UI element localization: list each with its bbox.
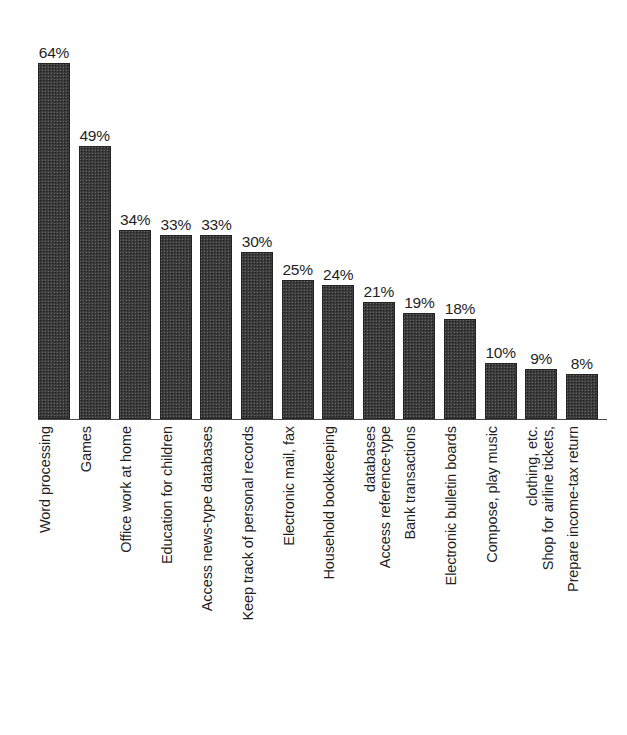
bar-value-label: 33%: [160, 216, 192, 233]
category-label-line: Games: [79, 426, 95, 472]
category-label: Education for children: [160, 426, 192, 716]
bar-slot: 9%: [525, 30, 566, 419]
bar[interactable]: [566, 374, 598, 419]
bar-value-label: 21%: [363, 283, 395, 300]
bar[interactable]: [160, 235, 192, 419]
category-label-slot: Office work at home: [119, 423, 160, 723]
category-label-line: Education for children: [160, 426, 176, 564]
category-label: Prepare income-tax return: [566, 426, 598, 716]
category-label-line: Office work at home: [119, 426, 135, 553]
category-label-slot: Prepare income-tax return: [566, 423, 607, 723]
x-axis-baseline: [38, 419, 607, 420]
bar-value-label: 25%: [282, 261, 314, 278]
bar-value-label: 30%: [241, 233, 273, 250]
bar[interactable]: [119, 230, 151, 419]
category-label: Access news-type databases: [200, 426, 232, 716]
category-label: Compose, play music: [485, 426, 517, 716]
category-label: Bank transactions: [403, 426, 435, 716]
bar[interactable]: [200, 235, 232, 419]
category-label-line: clothing, etc.: [525, 426, 541, 506]
bar-slot: 8%: [566, 30, 607, 419]
bar-slot: 33%: [160, 30, 201, 419]
category-label-slot: Electronic mail, fax: [282, 423, 323, 723]
bar-value-label: 10%: [485, 344, 517, 361]
bar[interactable]: [241, 252, 273, 419]
bar[interactable]: [38, 63, 70, 419]
category-label-slot: Games: [79, 423, 120, 723]
category-label-line: Access news-type databases: [200, 426, 216, 611]
bar[interactable]: [485, 363, 517, 419]
bar[interactable]: [403, 313, 435, 419]
bar-slot: 10%: [485, 30, 526, 419]
category-label-slot: Household bookkeeping: [322, 423, 363, 723]
bar-chart: 64%49%34%33%33%30%25%24%21%19%18%10%9%8%…: [0, 0, 627, 735]
category-label-slot: Access reference-typedatabases: [363, 423, 404, 723]
category-label-line: Electronic bulletin boards: [444, 426, 460, 585]
bar-value-label: 33%: [200, 216, 232, 233]
category-label-line: Electronic mail, fax: [282, 426, 298, 546]
category-label-slot: Word processing: [38, 423, 79, 723]
category-label: Shop for airline tickets,clothing, etc.: [525, 426, 557, 716]
category-label-line: Access reference-type: [378, 426, 394, 568]
category-label-line: Word processing: [38, 426, 54, 533]
plot-area: 64%49%34%33%33%30%25%24%21%19%18%10%9%8%: [38, 30, 607, 419]
bar-value-label: 19%: [403, 294, 435, 311]
category-label: Games: [79, 426, 111, 716]
bar[interactable]: [282, 280, 314, 419]
category-label-slot: Keep track of personal records: [241, 423, 282, 723]
category-label-line: Bank transactions: [403, 426, 419, 540]
category-label-line: Keep track of personal records: [241, 426, 257, 620]
bar-slot: 21%: [363, 30, 404, 419]
bar-value-label: 24%: [322, 266, 354, 283]
category-label-line: Compose, play music: [485, 426, 501, 563]
category-label-slot: Shop for airline tickets,clothing, etc.: [525, 423, 566, 723]
bar-value-label: 64%: [38, 44, 70, 61]
bar[interactable]: [322, 285, 354, 419]
category-labels-area: Word processingGamesOffice work at homeE…: [38, 423, 607, 723]
bar-value-label: 18%: [444, 300, 476, 317]
category-label: Office work at home: [119, 426, 151, 716]
bar-value-label: 9%: [525, 350, 557, 367]
bar-slot: 34%: [119, 30, 160, 419]
bar-slot: 24%: [322, 30, 363, 419]
category-label-slot: Education for children: [160, 423, 201, 723]
bar-slot: 33%: [200, 30, 241, 419]
category-label-line: Household bookkeeping: [322, 426, 338, 580]
bar[interactable]: [79, 146, 111, 419]
category-label-line: Prepare income-tax return: [566, 426, 582, 592]
bar-slot: 19%: [403, 30, 444, 419]
category-label-line: Shop for airline tickets,: [541, 426, 557, 570]
bar-slot: 49%: [79, 30, 120, 419]
bar-value-label: 8%: [566, 355, 598, 372]
bar-slot: 30%: [241, 30, 282, 419]
category-label: Electronic bulletin boards: [444, 426, 476, 716]
category-label-line: databases: [363, 426, 379, 492]
category-label: Word processing: [38, 426, 70, 716]
bar[interactable]: [363, 302, 395, 419]
bar-value-label: 34%: [119, 211, 151, 228]
category-label: Household bookkeeping: [322, 426, 354, 716]
bar[interactable]: [444, 319, 476, 419]
category-label-slot: Bank transactions: [403, 423, 444, 723]
category-label: Electronic mail, fax: [282, 426, 314, 716]
category-label: Keep track of personal records: [241, 426, 273, 716]
bar-slot: 25%: [282, 30, 323, 419]
bar-slot: 18%: [444, 30, 485, 419]
bar[interactable]: [525, 369, 557, 419]
category-label-slot: Electronic bulletin boards: [444, 423, 485, 723]
bar-value-label: 49%: [79, 127, 111, 144]
bar-slot: 64%: [38, 30, 79, 419]
category-label-slot: Access news-type databases: [200, 423, 241, 723]
category-label: Access reference-typedatabases: [363, 426, 395, 716]
category-label-slot: Compose, play music: [485, 423, 526, 723]
